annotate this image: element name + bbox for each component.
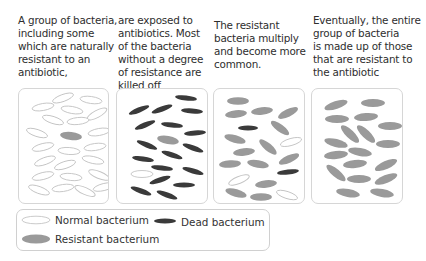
normal-bacterium <box>275 188 298 201</box>
normal-bacterium <box>279 136 302 149</box>
normal-bacterium <box>31 170 54 182</box>
normal-bacterium <box>84 142 107 152</box>
resistant-bacterium <box>354 112 378 122</box>
resistant-bacterium-icon <box>21 233 51 245</box>
resistant-bacterium <box>347 146 372 158</box>
dead-bacterium <box>277 168 299 175</box>
resistant-bacterium <box>156 134 179 146</box>
dead-bacterium <box>134 118 156 131</box>
normal-bacterium <box>41 113 64 126</box>
normal-bacterium <box>88 127 109 138</box>
dead-bacterium <box>184 130 206 137</box>
resistant-bacterium <box>323 136 348 150</box>
bacteria-illustration <box>117 89 208 204</box>
resistant-bacterium <box>251 106 274 116</box>
normal-bacterium <box>27 183 50 197</box>
resistant-bacterium <box>250 193 272 201</box>
resistant-bacterium <box>373 171 398 187</box>
legend-label-normal: Normal bacterium <box>55 214 149 226</box>
resistant-bacterium <box>224 186 247 199</box>
normal-bacterium <box>33 154 56 168</box>
resistant-bacterium <box>361 99 385 107</box>
resistant-bacterium <box>369 187 394 199</box>
normal-bacterium <box>67 116 90 125</box>
dead-bacterium <box>238 125 258 130</box>
normal-bacterium <box>32 102 55 113</box>
dead-bacterium <box>130 185 152 197</box>
panel-antibiotic-exposure <box>116 88 208 204</box>
resistant-bacterium <box>277 151 300 167</box>
resistant-bacterium <box>325 115 349 123</box>
caption-stage-1: A group of bacteria, including some whic… <box>18 14 117 79</box>
legend-item-dead: Dead bacterium <box>153 216 265 228</box>
normal-bacterium <box>74 183 97 198</box>
caption-stage-2: are exposed to antibiotics. Most of the … <box>118 14 203 92</box>
normal-bacterium-icon <box>21 215 51 225</box>
resistant-bacterium <box>335 187 360 199</box>
normal-bacterium <box>60 172 83 181</box>
normal-bacterium <box>80 95 103 105</box>
legend: Normal bacterium Dead bacterium Resistan… <box>16 209 270 251</box>
dead-bacterium <box>182 165 205 176</box>
dead-bacterium <box>173 182 195 187</box>
caption-stage-3: The resistant bacteria multiply and beco… <box>214 19 306 71</box>
resistant-bacterium <box>347 175 371 183</box>
dead-bacterium-icon <box>153 217 177 227</box>
dead-bacterium <box>132 155 155 163</box>
caption-stage-4: Eventually, the entire group of bacteria… <box>313 14 421 79</box>
resistant-bacterium <box>233 147 256 157</box>
normal-bacterium <box>51 91 74 105</box>
resistant-bacterium <box>324 150 349 160</box>
dead-bacterium <box>136 138 158 151</box>
dead-bacterium <box>151 103 173 115</box>
normal-bacterium <box>58 147 80 156</box>
dead-bacterium <box>156 189 178 201</box>
legend-item-normal: Normal bacterium <box>21 214 149 226</box>
resistant-bacterium <box>225 109 248 119</box>
dead-bacterium <box>151 164 173 171</box>
resistant-bacterium <box>269 118 291 137</box>
resistant-bacterium <box>60 131 83 141</box>
resistant-bacterium <box>255 179 278 189</box>
normal-bacterium <box>227 173 250 188</box>
resistant-bacterium <box>373 156 398 173</box>
legend-label-resistant: Resistant bacterium <box>55 233 159 245</box>
normal-bacterium <box>61 105 84 116</box>
legend-item-resistant: Resistant bacterium <box>21 233 159 245</box>
normal-bacterium <box>82 154 105 165</box>
normal-bacterium <box>25 126 48 139</box>
dead-bacterium <box>175 94 197 101</box>
panel-initial-population <box>18 88 109 204</box>
normal-bacterium <box>92 181 109 193</box>
resistant-bacterium <box>376 140 400 148</box>
resistant-bacterium <box>323 97 348 112</box>
resistant-bacterium <box>276 105 299 121</box>
bacteria-illustration <box>214 89 305 204</box>
dead-bacterium <box>181 108 203 115</box>
panel-fully-resistant <box>311 88 403 204</box>
resistant-bacterium <box>223 132 246 145</box>
dead-bacterium <box>161 149 184 161</box>
normal-bacterium <box>53 158 76 171</box>
normal-bacterium <box>31 141 54 153</box>
bacteria-illustration <box>312 89 403 204</box>
panel-resistant-multiply <box>213 88 305 204</box>
resistant-bacterium <box>219 159 241 168</box>
resistant-bacterium <box>378 122 402 130</box>
normal-bacterium <box>87 168 109 183</box>
resistant-bacterium <box>343 159 368 169</box>
resistant-bacterium <box>247 158 270 169</box>
resistant-bacterium <box>257 137 279 157</box>
dead-bacterium <box>161 121 183 128</box>
bacteria-illustration <box>19 89 109 204</box>
normal-bacterium <box>52 183 75 193</box>
dead-bacterium <box>182 142 204 154</box>
resistant-bacterium <box>227 97 249 105</box>
normal-bacterium <box>131 171 153 178</box>
dead-bacterium <box>128 103 150 116</box>
legend-label-dead: Dead bacterium <box>181 216 265 228</box>
